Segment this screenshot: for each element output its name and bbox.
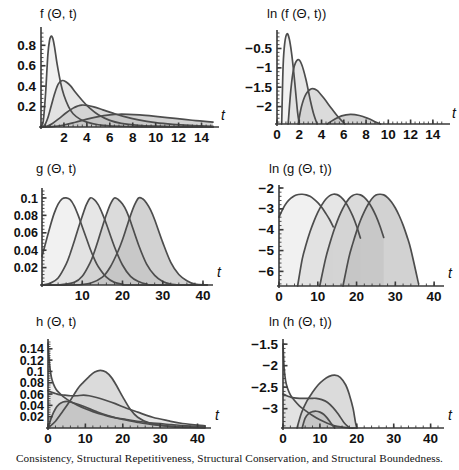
- y-tick-label: −2: [257, 99, 272, 114]
- x-tick-label: 30: [155, 288, 170, 303]
- x-tick-label: 10: [78, 431, 93, 446]
- x-tick-label: 0: [279, 431, 287, 446]
- x-axis-label: t: [215, 407, 220, 423]
- y-tick-label: 0.6: [17, 58, 36, 73]
- panel-ln-g: ln (g (Θ, t))010203040−2−3−4−5−6t: [229, 155, 459, 310]
- x-axis-label: t: [221, 107, 226, 123]
- x-tick-label: 8: [129, 130, 137, 145]
- x-tick-label: 4: [318, 127, 326, 142]
- panel-title: g (Θ, t): [36, 161, 76, 176]
- x-tick-label: 14: [425, 127, 441, 142]
- y-tick-label: −6: [259, 264, 275, 279]
- y-tick-label: −3: [263, 401, 279, 416]
- x-tick-label: 20: [115, 431, 130, 446]
- panel-ln-f: ln (f (Θ, t))02468101214−0.5−1−1.5−2t: [229, 0, 459, 155]
- x-tick-label: 2: [296, 127, 304, 142]
- x-tick-label: 12: [403, 127, 418, 142]
- panel-title: ln (h (Θ, t)): [269, 314, 332, 329]
- y-tick-label: −2: [259, 181, 274, 196]
- panel-g: g (Θ, t)102030400.020.040.060.080.1t: [0, 155, 229, 310]
- chart-ln_f: ln (f (Θ, t))02468101214−0.5−1−1.5−2t: [229, 0, 459, 155]
- y-tick-label: 0.8: [17, 38, 36, 53]
- chart-ln_g: ln (g (Θ, t))010203040−2−3−4−5−6t: [229, 155, 459, 310]
- x-axis-label: t: [448, 407, 453, 423]
- x-tick-label: 30: [386, 431, 401, 446]
- y-tick-label: −4: [259, 222, 275, 237]
- y-tick-label: 0.08: [14, 209, 38, 223]
- x-tick-label: 30: [388, 289, 403, 304]
- y-tick-label: 0.04: [14, 244, 38, 258]
- y-tick-label: −1.5: [245, 80, 272, 95]
- x-tick-label: 30: [153, 431, 168, 446]
- panel-title: ln (g (Θ, t)): [269, 161, 332, 176]
- y-tick-label: −1: [257, 60, 273, 75]
- y-tick-label: −2.5: [251, 380, 278, 395]
- x-tick-label: 6: [106, 130, 114, 145]
- x-tick-label: 40: [190, 431, 205, 446]
- x-tick-label: 10: [312, 431, 327, 446]
- x-axis-label: t: [448, 265, 453, 281]
- y-tick-label: −2: [263, 358, 278, 373]
- x-tick-label: 10: [75, 288, 90, 303]
- chart-f: f (Θ, t)24681012140.20.40.60.8t: [0, 0, 229, 155]
- y-tick-label: 0.02: [14, 261, 38, 275]
- y-tick-label: 0.06: [14, 226, 38, 240]
- y-tick-label: 0.2: [17, 99, 36, 114]
- x-tick-label: 40: [423, 431, 438, 446]
- x-tick-label: 0: [44, 431, 52, 446]
- x-tick-label: 10: [148, 130, 163, 145]
- chart-h: h (Θ, t)0102030400.020.040.060.080.10.12…: [0, 310, 229, 455]
- x-tick-label: 0: [275, 289, 283, 304]
- y-tick-label: −3: [259, 201, 275, 216]
- x-tick-label: 10: [310, 289, 325, 304]
- x-tick-label: 10: [381, 127, 396, 142]
- y-tick-label: 0.14: [20, 342, 44, 356]
- x-axis-label: t: [452, 105, 457, 121]
- y-tick-label: 0.4: [17, 79, 36, 94]
- x-tick-label: 4: [83, 130, 91, 145]
- panel-ln-h: ln (h (Θ, t))010203040−1.5−2−2.5−3t: [229, 310, 459, 455]
- x-tick-label: 6: [340, 127, 348, 142]
- chart-ln_h: ln (h (Θ, t))010203040−1.5−2−2.5−3t: [229, 310, 459, 455]
- x-tick-label: 20: [349, 289, 364, 304]
- x-tick-label: 40: [427, 289, 442, 304]
- panel-h: h (Θ, t)0102030400.020.040.060.080.10.12…: [0, 310, 229, 455]
- y-tick-label: 0.1: [21, 192, 38, 206]
- x-tick-label: 2: [60, 130, 68, 145]
- y-tick-label: −5: [259, 243, 275, 258]
- figure-panel-grid: f (Θ, t)24681012140.20.40.60.8t ln (f (Θ…: [0, 0, 459, 455]
- x-tick-label: 0: [273, 127, 281, 142]
- x-tick-label: 40: [195, 288, 210, 303]
- figure-caption: Consistency, Structural Repetitiveness, …: [0, 452, 459, 464]
- y-tick-label: −1.5: [251, 337, 278, 352]
- y-tick-label: −0.5: [245, 41, 272, 56]
- x-axis-label: t: [217, 264, 222, 280]
- x-tick-label: 20: [115, 288, 130, 303]
- panel-title: f (Θ, t): [40, 6, 77, 21]
- x-tick-label: 8: [362, 127, 370, 142]
- x-tick-label: 12: [171, 130, 186, 145]
- x-tick-label: 14: [194, 130, 210, 145]
- panel-f: f (Θ, t)24681012140.20.40.60.8t: [0, 0, 229, 155]
- panel-title: h (Θ, t): [36, 314, 76, 329]
- chart-g: g (Θ, t)102030400.020.040.060.080.1t: [0, 155, 229, 310]
- panel-title: ln (f (Θ, t)): [267, 6, 326, 21]
- x-tick-label: 20: [349, 431, 364, 446]
